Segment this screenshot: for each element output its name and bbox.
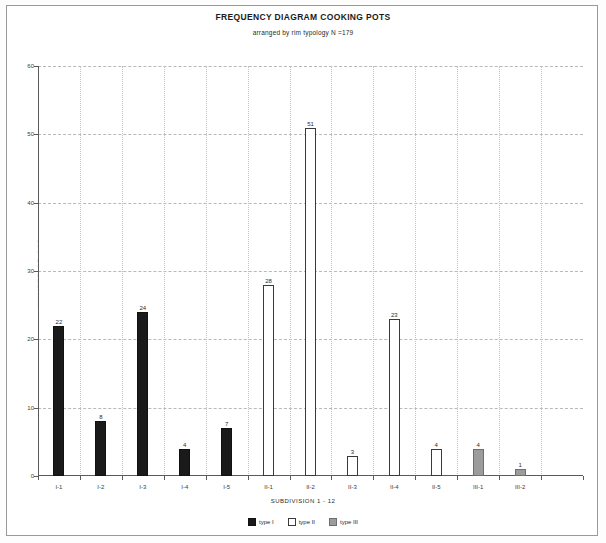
gridline-vertical [164,66,165,476]
bar-ii-3[interactable]: 3 [347,456,358,477]
x-tick-mark [164,476,165,480]
x-tick-label-i-4: I-4 [181,484,188,490]
gridline-vertical [290,66,291,476]
y-tick-label: 0 [31,473,34,479]
x-tick-mark [248,476,249,480]
bar-value-label: 51 [307,121,314,127]
bar-value-label: 1 [518,462,521,468]
gridline-horizontal [38,66,583,67]
y-tick-mark [34,203,38,204]
bar-value-label: 8 [99,414,102,420]
y-tick-mark [34,271,38,272]
gridline-vertical [457,66,458,476]
gridline-vertical [499,66,500,476]
y-tick-label: 50 [27,131,34,137]
bar-i-3[interactable]: 24 [137,312,148,476]
x-axis-title: SUBDIVISION 1 - 12 [0,498,606,504]
chart-page: FREQUENCY DIAGRAM COOKING POTS arranged … [0,0,606,543]
x-tick-mark [457,476,458,480]
bar-value-label: 22 [56,319,63,325]
x-tick-label-i-1: I-1 [55,484,62,490]
bar-ii-2[interactable]: 51 [305,128,316,477]
bar-value-label: 7 [225,421,228,427]
gridline-vertical [373,66,374,476]
x-tick-mark [290,476,291,480]
x-tick-mark [415,476,416,480]
bar-ii-5[interactable]: 4 [431,449,442,476]
gridline-vertical [122,66,123,476]
legend-label: type II [299,519,315,525]
x-tick-mark [38,476,39,480]
bar-i-1[interactable]: 22 [53,326,64,476]
bar-value-label: 24 [139,305,146,311]
legend-swatch-icon [248,518,256,526]
x-tick-mark [80,476,81,480]
legend-item[interactable]: type III [329,518,358,526]
legend-item[interactable]: type II [288,518,315,526]
gridline-vertical [541,66,542,476]
bar-value-label: 4 [477,442,480,448]
legend-label: type III [340,519,358,525]
bar-value-label: 4 [183,442,186,448]
gridline-vertical [206,66,207,476]
bar-i-2[interactable]: 8 [95,421,106,476]
x-tick-label-iii-2: III-2 [515,484,525,490]
x-tick-label-ii-2: II-2 [306,484,315,490]
gridline-vertical [80,66,81,476]
x-tick-label-ii-5: II-5 [432,484,441,490]
chart-subtitle: arranged by rim typology N =179 [0,29,606,36]
gridline-vertical [415,66,416,476]
x-tick-mark [583,476,584,480]
x-tick-label-ii-4: II-4 [390,484,399,490]
y-tick-label: 20 [27,336,34,342]
chart-header: FREQUENCY DIAGRAM COOKING POTS arranged … [0,12,606,36]
bar-iii-2[interactable]: 1 [515,469,526,476]
bar-value-label: 4 [435,442,438,448]
plot-area: 0102030405060 I-1I-2I-3I-4I-5II-1II-2II-… [38,66,583,476]
x-tick-mark [541,476,542,480]
legend-item[interactable]: type I [248,518,274,526]
y-tick-mark [34,134,38,135]
x-tick-label-i-2: I-2 [97,484,104,490]
bar-value-label: 23 [391,312,398,318]
legend-swatch-icon [329,518,337,526]
y-tick-mark [34,408,38,409]
y-tick-mark [34,339,38,340]
chart-title: FREQUENCY DIAGRAM COOKING POTS [0,12,606,22]
gridline-vertical [331,66,332,476]
bar-ii-1[interactable]: 28 [263,285,274,476]
y-tick-label: 30 [27,268,34,274]
x-tick-label-i-5: I-5 [223,484,230,490]
x-tick-mark [331,476,332,480]
bar-value-label: 3 [351,449,354,455]
x-tick-mark [499,476,500,480]
x-tick-label-ii-3: II-3 [348,484,357,490]
gridline-vertical [248,66,249,476]
bar-i-5[interactable]: 7 [221,428,232,476]
x-tick-mark [206,476,207,480]
y-tick-label: 60 [27,63,34,69]
y-tick-mark [34,66,38,67]
legend-label: type I [259,519,274,525]
bar-iii-1[interactable]: 4 [473,449,484,476]
y-axis-line [38,66,39,476]
x-tick-label-iii-1: III-1 [473,484,483,490]
chart-legend: type Itype IItype III [0,518,606,526]
y-tick-label: 40 [27,200,34,206]
y-tick-label: 10 [27,405,34,411]
x-tick-label-ii-1: II-1 [264,484,273,490]
bar-ii-4[interactable]: 23 [389,319,400,476]
legend-swatch-icon [288,518,296,526]
x-tick-label-i-3: I-3 [139,484,146,490]
x-tick-mark [373,476,374,480]
bar-value-label: 28 [265,278,272,284]
x-tick-mark [122,476,123,480]
bar-i-4[interactable]: 4 [179,449,190,476]
